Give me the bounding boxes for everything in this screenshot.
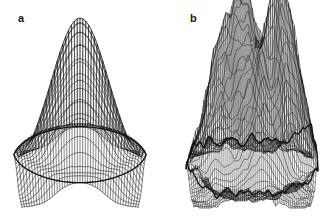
- surface-plot-b: [168, 0, 336, 219]
- surface-plot-a: [0, 0, 168, 219]
- panel-b: b: [168, 0, 336, 219]
- panel-label-a: a: [18, 13, 24, 24]
- panel-a: a: [0, 0, 168, 219]
- figure-canvas: a b: [0, 0, 336, 219]
- panel-label-b: b: [190, 13, 197, 24]
